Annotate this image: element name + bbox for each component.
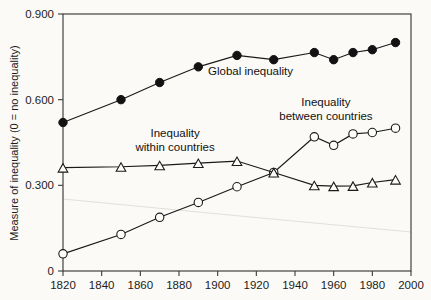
data-point-marker xyxy=(59,250,67,258)
data-point-marker xyxy=(270,55,278,63)
x-tick-label: 1900 xyxy=(205,279,231,291)
y-tick-label: 0 xyxy=(48,265,54,277)
data-point-marker xyxy=(391,38,399,46)
data-point-marker xyxy=(310,48,318,56)
annotation-global-inequality: Global inequality xyxy=(208,65,293,77)
x-tick-label: 1820 xyxy=(50,279,76,291)
data-point-marker xyxy=(233,183,241,191)
y-tick-label: 0.600 xyxy=(25,94,54,106)
data-point-marker xyxy=(194,63,202,71)
figure-container: 00.3000.6000.900 18201840186018801900192… xyxy=(0,0,431,300)
x-tick-label: 1980 xyxy=(360,279,386,291)
data-point-marker xyxy=(59,118,67,126)
data-point-marker xyxy=(117,230,125,238)
annotation-label: within countries xyxy=(135,141,216,153)
data-point-marker xyxy=(368,128,376,136)
data-point-marker xyxy=(233,51,241,59)
x-tick-label: 1880 xyxy=(166,279,192,291)
x-tick-label: 1940 xyxy=(282,279,308,291)
data-point-marker xyxy=(194,198,202,206)
annotation-label: Inequality xyxy=(151,127,200,139)
y-axis-title: Measure of inequality (0 = no inequality… xyxy=(8,45,20,240)
y-axis-title-label: Measure of inequality (0 = no inequality… xyxy=(8,45,20,240)
data-point-marker xyxy=(349,48,357,56)
data-point-marker xyxy=(329,55,337,63)
inequality-line-chart: 00.3000.6000.900 18201840186018801900192… xyxy=(0,0,431,300)
data-point-marker xyxy=(155,213,163,221)
data-point-marker xyxy=(329,141,337,149)
data-point-marker xyxy=(368,45,376,53)
annotation-label: Inequality xyxy=(301,96,350,108)
data-point-marker xyxy=(349,130,357,138)
x-tick-label: 1920 xyxy=(244,279,270,291)
annotation-label: Global inequality xyxy=(208,65,293,77)
x-tick-label: 1840 xyxy=(89,279,115,291)
data-point-marker xyxy=(310,133,318,141)
y-tick-label: 0.900 xyxy=(25,8,54,20)
annotation-label: between countries xyxy=(279,110,373,122)
y-tick-label: 0.300 xyxy=(25,179,54,191)
data-point-marker xyxy=(117,95,125,103)
x-tick-label: 2000 xyxy=(398,279,424,291)
data-point-marker xyxy=(155,78,163,86)
x-tick-label: 1960 xyxy=(321,279,347,291)
data-point-marker xyxy=(391,124,399,132)
x-tick-label: 1860 xyxy=(128,279,154,291)
